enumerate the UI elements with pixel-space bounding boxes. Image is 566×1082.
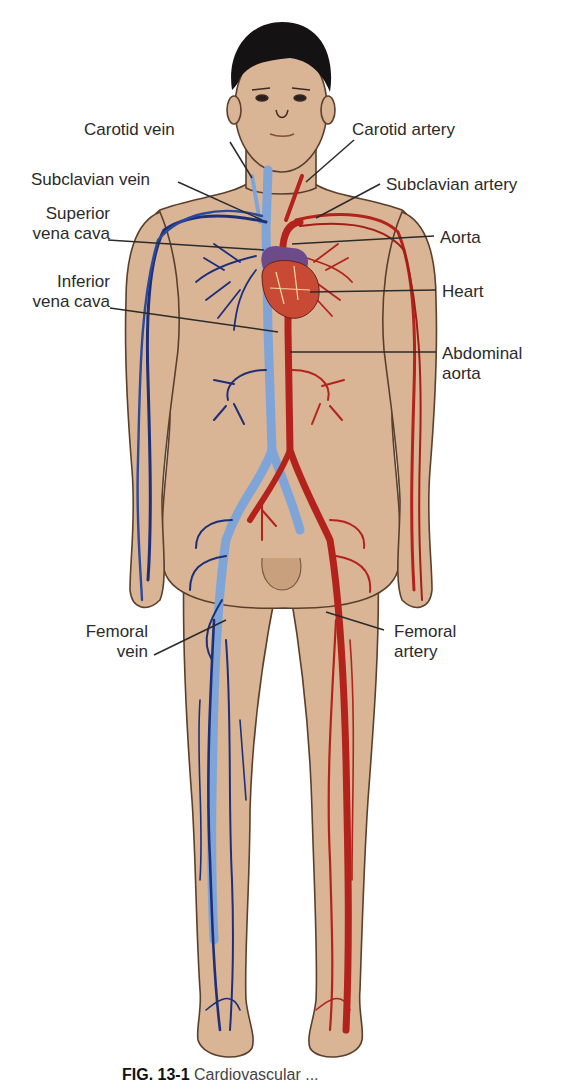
label-subclavian-artery: Subclavian artery bbox=[386, 175, 517, 195]
label-text-line2: aorta bbox=[442, 364, 522, 384]
cardiovascular-diagram bbox=[0, 0, 566, 1082]
label-text: Carotid vein bbox=[84, 120, 175, 139]
label-text-line1: Superior bbox=[18, 204, 110, 224]
human-body-figure bbox=[125, 44, 436, 1057]
label-femoral-artery: Femoral artery bbox=[394, 622, 456, 662]
label-abdominal-aorta: Abdominal aorta bbox=[442, 344, 522, 384]
label-text-line2: vena cava bbox=[14, 292, 110, 312]
label-aorta: Aorta bbox=[440, 228, 481, 248]
label-subclavian-vein: Subclavian vein bbox=[31, 170, 150, 190]
label-text-line2: vena cava bbox=[18, 224, 110, 244]
label-text: Aorta bbox=[440, 228, 481, 247]
label-carotid-vein: Carotid vein bbox=[84, 120, 175, 140]
label-text: Subclavian artery bbox=[386, 175, 517, 194]
label-text-line2: artery bbox=[394, 642, 456, 662]
label-text-line1: Abdominal bbox=[442, 344, 522, 364]
label-text-line2: vein bbox=[60, 642, 148, 662]
figure-number: FIG. 13-1 bbox=[122, 1066, 190, 1082]
label-inferior-vena-cava: Inferior vena cava bbox=[14, 272, 110, 312]
figure-caption: FIG. 13-1 Cardiovascular ... bbox=[122, 1066, 319, 1082]
label-text-line1: Inferior bbox=[14, 272, 110, 292]
label-superior-vena-cava: Superior vena cava bbox=[18, 204, 110, 244]
label-text-line1: Femoral bbox=[60, 622, 148, 642]
label-text: Subclavian vein bbox=[31, 170, 150, 189]
label-carotid-artery: Carotid artery bbox=[352, 120, 455, 140]
label-heart: Heart bbox=[442, 282, 484, 302]
label-text: Heart bbox=[442, 282, 484, 301]
label-text-line1: Femoral bbox=[394, 622, 456, 642]
label-femoral-vein: Femoral vein bbox=[60, 622, 148, 662]
caption-text: Cardiovascular ... bbox=[194, 1066, 319, 1082]
label-text: Carotid artery bbox=[352, 120, 455, 139]
